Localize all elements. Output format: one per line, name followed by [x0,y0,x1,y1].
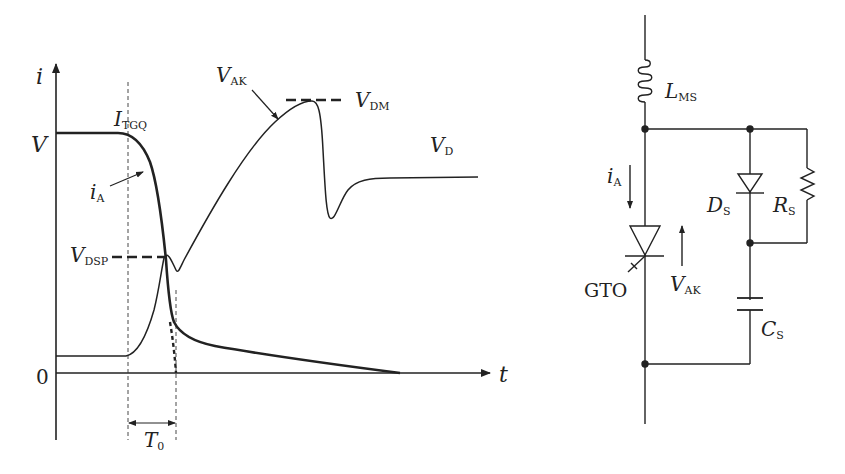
x-axis-label: t [499,362,508,387]
origin-label: 0 [36,365,49,389]
y-axis-label: i [36,64,43,89]
vak-circuit-label: VAK [670,272,701,297]
gto-symbol [630,226,660,255]
resistor-label: RS [772,193,796,218]
vak-curve-label: VAK [216,63,247,88]
ia-pointer-arrow [110,172,143,186]
inductor-symbol [638,60,652,102]
ia-curve-label: iA [90,180,105,205]
inductor-label: LMS [664,79,697,104]
vd-label: VD [430,133,453,158]
level-label: V [31,132,49,157]
gto-gate-lead [628,256,645,272]
voltage-curve [56,101,478,356]
current-extrapolation [170,322,176,373]
ia-circuit-label: iA [607,164,622,189]
vak-pointer-arrow [252,90,278,119]
current-curve [56,133,400,373]
waveform-plot: i t 0 V T0 VDM VDSP ITGQ [31,63,508,453]
diode-symbol [738,174,762,192]
t0-label: T0 [144,428,164,453]
diode-label: DS [706,193,731,218]
capacitor-label: CS [761,317,784,342]
gto-label: GTO [584,279,627,301]
snubber-circuit [625,15,814,424]
itgq-label: ITGQ [113,107,147,132]
gto-turnoff-figure: i t 0 V T0 VDM VDSP ITGQ [0,0,845,474]
vdm-label: VDM [355,88,390,113]
resistor-symbol [801,168,814,200]
vdsp-label: VDSP [70,243,109,268]
